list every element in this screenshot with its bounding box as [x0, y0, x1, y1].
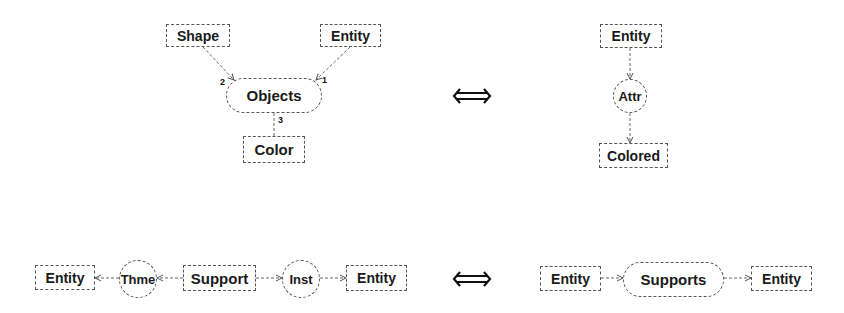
concept-entity: Entity: [320, 24, 381, 47]
double-arrow-icon: [452, 269, 492, 289]
relation-supports: Supports: [623, 262, 724, 297]
concept-shape: Shape: [166, 24, 230, 47]
concept-colored: Colored: [599, 143, 668, 168]
edge-label-3: 3: [278, 115, 283, 125]
concept-entity-left: Entity: [35, 265, 95, 290]
concept-color: Color: [243, 136, 305, 163]
relation-objects: Objects: [226, 78, 322, 113]
edge-label-1: 1: [322, 75, 327, 85]
concept-entity-left: Entity: [540, 266, 601, 291]
double-arrow-icon: [452, 86, 492, 106]
relation-attr: Attr: [613, 79, 647, 113]
edge-shape-objects: [203, 47, 234, 80]
relation-inst: Inst: [282, 260, 320, 298]
concept-entity: Entity: [600, 24, 662, 48]
concept-entity-right: Entity: [346, 265, 407, 291]
diagram-canvas: Shape Entity Objects Color 2 1 3 Entity …: [0, 0, 844, 313]
relation-thme: Thme: [119, 260, 157, 298]
concept-support: Support: [183, 265, 256, 291]
edge-label-2: 2: [220, 77, 225, 87]
concept-entity-right: Entity: [751, 266, 812, 291]
